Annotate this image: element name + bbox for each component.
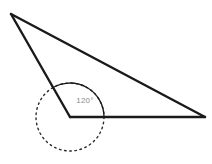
geometry-diagram: 120° <box>0 0 212 164</box>
angle-label-120-degrees: 120° <box>76 96 93 105</box>
figure-root: 120° <box>0 0 212 164</box>
